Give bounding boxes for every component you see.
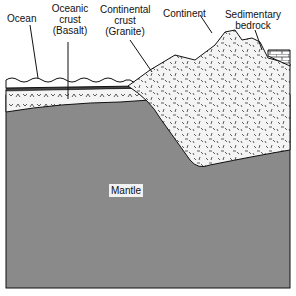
- sedimentary-label-line2: bedrock: [224, 20, 282, 31]
- oceanic-crust-label-line2: crust: [50, 14, 90, 25]
- oceanic-crust-label-line3: (Basalt): [50, 25, 90, 36]
- continent-label: Continent: [163, 8, 206, 19]
- continental-crust-label-line2: crust: [100, 15, 150, 26]
- continental-crust-label: Continental crust (Granite): [100, 4, 150, 37]
- ocean-water: [6, 78, 140, 88]
- oceanic-crust-label-line1: Oceanic: [50, 3, 90, 14]
- oceanic-crust-label: Oceanic crust (Basalt): [50, 3, 90, 36]
- sedimentary-label-line1: Sedimentary: [224, 9, 282, 20]
- ocean-label: Ocean: [7, 13, 36, 24]
- earth-crust-diagram: [0, 0, 296, 296]
- continental-crust-label-line3: (Granite): [100, 26, 150, 37]
- continental-crust-label-line1: Continental: [100, 4, 150, 15]
- sedimentary-bedrock-label: Sedimentary bedrock: [224, 9, 282, 31]
- mantle-label: Mantle: [109, 184, 143, 197]
